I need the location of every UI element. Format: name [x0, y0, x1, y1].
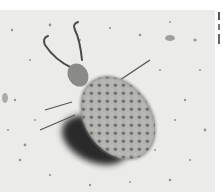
photo-credit-text	[216, 10, 223, 70]
insect-photo	[0, 10, 215, 192]
